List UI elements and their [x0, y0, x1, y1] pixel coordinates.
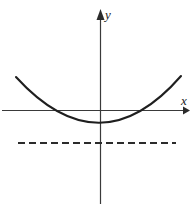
parabola-curve [16, 76, 181, 123]
graph-canvas: y x [0, 0, 191, 207]
y-axis-arrowhead-icon [97, 9, 105, 20]
x-axis-label: x [180, 93, 187, 108]
math-figure: y x [0, 0, 191, 207]
y-axis-label: y [103, 7, 111, 22]
